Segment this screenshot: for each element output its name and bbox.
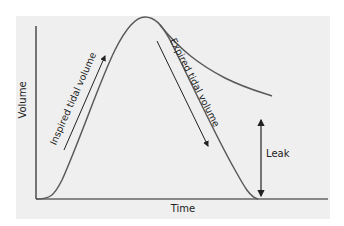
volume-time-diagram: Volume Time Inspired tidal volume Expire… <box>0 0 344 226</box>
y-axis-label: Volume <box>17 81 28 118</box>
inspired-label: Inspired tidal volume <box>47 50 98 146</box>
volume-curve-leak <box>160 25 272 96</box>
leak-label: Leak <box>266 148 290 159</box>
x-axis-label: Time <box>170 203 195 214</box>
expired-label: Expired tidal volume <box>168 36 222 128</box>
